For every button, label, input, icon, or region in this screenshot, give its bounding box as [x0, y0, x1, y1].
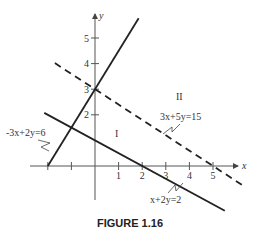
region-label-1: I: [115, 128, 118, 139]
line-label-1: -3x+2y=6: [6, 127, 46, 138]
figure-diagram: x y 123452345 -3x+2y=6 x+2y=2 3x+5y=15 I…: [0, 0, 258, 234]
axis-ticks: 123452345: [48, 33, 216, 182]
label-leader-3: [163, 124, 180, 134]
y-axis-label: y: [98, 10, 104, 21]
constraint-lines: [44, 18, 246, 211]
y-tick-label: 4: [84, 58, 89, 69]
y-tick-label: 2: [84, 109, 89, 120]
label-leader-1: [38, 140, 50, 151]
line-2: [44, 113, 225, 211]
figure-caption: FIGURE 1.16: [97, 217, 163, 229]
line-3: [55, 63, 246, 187]
line-label-2: x+2y=2: [150, 194, 181, 205]
line-label-3: 3x+5y=15: [160, 111, 201, 122]
x-tick-label: 4: [187, 170, 192, 181]
region-label-2: II: [176, 91, 183, 102]
x-tick-label: 5: [211, 170, 216, 181]
x-tick-label: 1: [116, 170, 121, 181]
line-1: [48, 18, 139, 166]
x-tick-label: 2: [140, 170, 145, 181]
x-axis-label: x: [241, 160, 247, 171]
y-tick-label: 5: [84, 33, 89, 44]
